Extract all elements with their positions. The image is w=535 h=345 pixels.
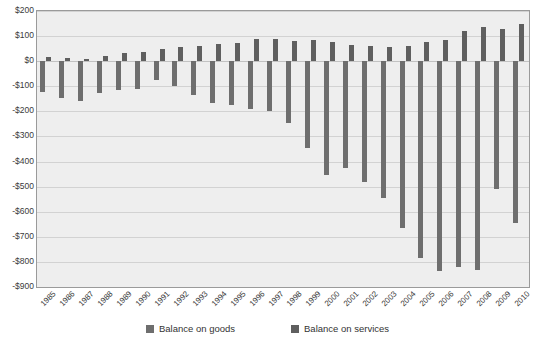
bar-services-2009 [500, 29, 505, 61]
bar-group [284, 11, 303, 287]
bar-goods-1993 [191, 61, 196, 94]
bar-goods-2010 [513, 61, 518, 223]
bar-group [57, 11, 76, 287]
gridline [37, 287, 529, 288]
bar-goods-1995 [229, 61, 234, 105]
bar-services-1988 [103, 56, 108, 61]
y-axis-tick-label: -$200 [0, 106, 34, 115]
y-axis-tick-label: -$600 [0, 207, 34, 216]
y-axis-tick-label: -$700 [0, 232, 34, 241]
y-axis-tick-label: -$400 [0, 157, 34, 166]
bar-goods-2001 [343, 61, 348, 168]
bar-goods-1986 [59, 61, 64, 97]
bar-services-2000 [330, 42, 335, 61]
bar-services-1985 [46, 57, 51, 62]
bar-services-1997 [273, 39, 278, 62]
bar-goods-1987 [78, 61, 83, 101]
legend-label: Balance on goods [159, 324, 235, 334]
bar-group [208, 11, 227, 287]
y-axis-tick-label: -$900 [0, 282, 34, 291]
bar-services-1989 [122, 53, 127, 61]
bar-services-1987 [84, 59, 89, 62]
bar-group [398, 11, 417, 287]
plot-area [36, 10, 530, 288]
y-axis: $200$100$0-$100-$200-$300-$400-$500-$600… [0, 0, 34, 300]
bar-services-2001 [349, 45, 354, 61]
bar-goods-1990 [135, 61, 140, 89]
bar-services-1998 [292, 41, 297, 62]
bar-goods-2008 [475, 61, 480, 270]
bar-group [416, 11, 435, 287]
bar-group [189, 11, 208, 287]
bar-goods-1994 [210, 61, 215, 103]
bar-group [492, 11, 511, 287]
bar-services-1992 [178, 47, 183, 62]
bar-goods-2000 [324, 61, 329, 174]
legend-item[interactable]: Balance on services [291, 324, 389, 334]
y-axis-tick-label: $100 [0, 31, 34, 40]
bar-group [76, 11, 95, 287]
bar-services-2002 [368, 46, 373, 62]
y-axis-tick-label: -$500 [0, 182, 34, 191]
bar-group [322, 11, 341, 287]
chart-legend: Balance on goodsBalance on services [0, 321, 535, 337]
bar-goods-1998 [286, 61, 291, 123]
bar-goods-2006 [437, 61, 442, 271]
bar-services-2008 [481, 27, 486, 61]
bar-goods-2003 [381, 61, 386, 198]
bar-goods-1997 [267, 61, 272, 111]
bar-goods-1985 [40, 61, 45, 92]
bar-goods-1988 [97, 61, 102, 93]
bar-goods-2005 [418, 61, 423, 257]
bar-goods-2007 [456, 61, 461, 267]
bar-goods-2004 [400, 61, 405, 228]
bar-services-2003 [387, 47, 392, 61]
bar-group [114, 11, 133, 287]
bar-group [95, 11, 114, 287]
bar-group [379, 11, 398, 287]
bar-goods-1999 [305, 61, 310, 148]
bar-services-2004 [406, 46, 411, 62]
y-axis-tick-label: -$100 [0, 81, 34, 90]
bar-group [227, 11, 246, 287]
bar-services-2007 [462, 31, 467, 61]
bar-group [511, 11, 530, 287]
bar-group [303, 11, 322, 287]
legend-label: Balance on services [304, 324, 389, 334]
bar-group [152, 11, 171, 287]
legend-swatch-icon [146, 325, 154, 333]
y-axis-tick-label: $200 [0, 6, 34, 15]
bar-goods-1989 [116, 61, 121, 90]
bar-services-1986 [65, 58, 70, 61]
bar-services-1999 [311, 40, 316, 61]
y-axis-tick-label: -$300 [0, 131, 34, 140]
bar-services-1991 [160, 49, 165, 61]
legend-item[interactable]: Balance on goods [146, 324, 235, 334]
bar-services-1990 [141, 52, 146, 62]
legend-swatch-icon [291, 325, 299, 333]
bar-services-2010 [519, 24, 524, 62]
bar-goods-1996 [248, 61, 253, 109]
bar-goods-2002 [362, 61, 367, 182]
bar-services-2005 [424, 42, 429, 61]
bar-group [265, 11, 284, 287]
bar-services-1994 [216, 44, 221, 61]
y-axis-tick-label: $0 [0, 56, 34, 65]
bar-chart: $200$100$0-$100-$200-$300-$400-$500-$600… [0, 0, 535, 345]
bar-group [360, 11, 379, 287]
bar-group [133, 11, 152, 287]
bar-services-1995 [235, 43, 240, 62]
bar-goods-2009 [494, 61, 499, 189]
bar-goods-1991 [154, 61, 159, 80]
bar-services-1996 [254, 39, 259, 61]
bar-services-2006 [443, 40, 448, 62]
bar-group [454, 11, 473, 287]
bar-group [435, 11, 454, 287]
bar-services-1993 [197, 46, 202, 62]
y-axis-tick-label: -$800 [0, 257, 34, 266]
bar-group [170, 11, 189, 287]
bar-group [38, 11, 57, 287]
bar-goods-1992 [172, 61, 177, 85]
bar-group [473, 11, 492, 287]
bar-group [246, 11, 265, 287]
